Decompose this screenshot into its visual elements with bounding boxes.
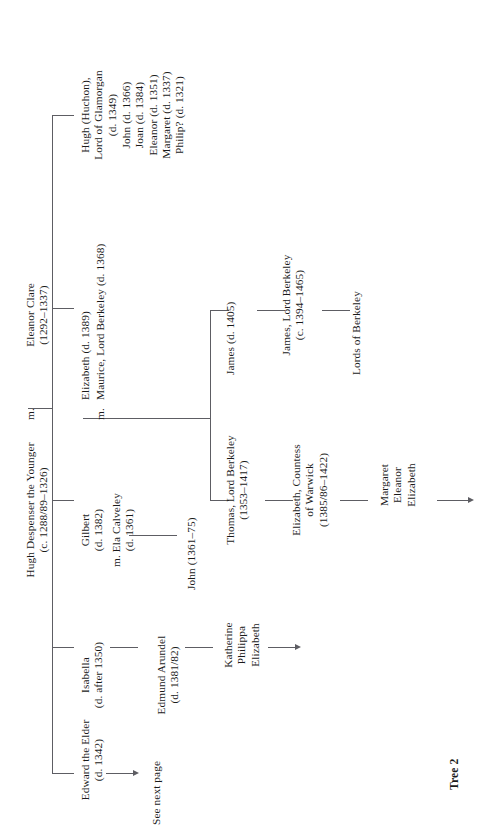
child-hugh-line2: Lord of Glamorgan	[92, 35, 105, 195]
wife-block: Eleanor Clare (1292–1337)	[24, 230, 51, 400]
descent-line-edmund-to-issue	[185, 647, 213, 648]
sibling-tick-elizabeth	[52, 308, 74, 309]
child-gilbert-block: Gilbert (d. 1382)	[79, 470, 106, 590]
isabella-issue-item: Katherine	[222, 590, 235, 700]
child-edward-dates: (d. 1342)	[92, 695, 105, 825]
descent-line-james-lord-to-lords	[322, 310, 350, 311]
see-next-page-label[interactable]: See next page	[150, 715, 163, 825]
sibling-tick-isabella	[52, 647, 74, 648]
husband-dates: (c. 1288/89–1326)	[37, 400, 50, 620]
berkeley-grandchild-item: Eleanor	[391, 430, 404, 540]
continuation-arrow-line-warwick	[437, 500, 469, 501]
berkeley-grandchild-item: Margaret	[378, 430, 391, 540]
descent-line-thomas-to-elizabeth	[265, 500, 293, 501]
isabella-issue-list: Katherine Philippa Elizabeth	[222, 590, 262, 700]
berkeley-issue-spine	[210, 310, 211, 500]
berkeley-continuation-label: Lords of Berkeley	[350, 245, 363, 375]
gilbert-child-john: John (1361–75)	[185, 470, 198, 590]
child-gilbert-name: Gilbert	[79, 470, 92, 590]
gilbert-spouse-dates: (d. 1361)	[123, 470, 136, 590]
berkeley-elizabeth-warwick-dates: (1385/86–1422)	[317, 415, 330, 565]
isabella-spouse-dates: (d. 1381/82)	[168, 610, 181, 740]
child-edward-block: Edward the Elder (d. 1342)	[79, 695, 106, 825]
child-hugh-block: Hugh (Huchon), Lord of Glamorgan (d. 134…	[79, 35, 119, 195]
berkeley-elizabeth-warwick-name: Elizabeth, Countess	[290, 415, 303, 565]
continuation-arrow-line-arundel	[268, 647, 296, 648]
husband-block: Hugh Despenser the Younger (c. 1288/89–1…	[24, 400, 51, 620]
isabella-issue-item: Elizabeth	[249, 590, 262, 700]
sibling-tick-hugh	[52, 115, 74, 116]
hugh-issue-item: Eleanor (d. 1351)	[147, 35, 160, 195]
husband-name: Hugh Despenser the Younger	[24, 400, 37, 620]
child-elizabeth-spouse: Maurice, Lord Berkeley (d. 1368)	[94, 210, 107, 400]
see-next-page-arrow-head	[133, 770, 139, 776]
sibling-spine	[52, 115, 53, 774]
berkeley-thomas-dates: (1353–1417)	[237, 415, 250, 565]
hugh-issue-item: John (d. 1366)	[120, 35, 133, 195]
sibling-tick-edward	[52, 773, 74, 774]
hugh-issue-list: John (d. 1366) Joan (d. 1384) Eleanor (d…	[120, 35, 187, 195]
child-elizabeth-name: Elizabeth (d. 1389)	[79, 260, 92, 400]
descent-line-isabella-to-edmund	[110, 647, 138, 648]
see-next-page-arrow-line	[106, 773, 134, 774]
child-hugh-line1: Hugh (Huchon),	[79, 35, 92, 195]
berkeley-grandchild-item: Elizabeth	[405, 430, 418, 540]
hugh-issue-item: Margaret (d. 1337)	[160, 35, 173, 195]
berkeley-james-lord-dates: (c. 1394–1465)	[293, 235, 306, 375]
child-hugh-line3: (d. 1349)	[106, 35, 119, 195]
hugh-issue-item: Philip? (d. 1321)	[173, 35, 186, 195]
berkeley-james-lord-name: James, Lord Berkeley	[280, 235, 293, 375]
child-gilbert-dates: (d. 1382)	[92, 470, 105, 590]
figure-caption: Tree 2	[448, 720, 462, 790]
child-edward-name: Edward the Elder	[79, 695, 92, 825]
berkeley-elizabeth-warwick-title: of Warwick	[303, 415, 316, 565]
berkeley-grandchildren-list: Margaret Eleanor Elizabeth	[378, 430, 418, 540]
wife-dates: (1292–1337)	[37, 230, 50, 400]
isabella-issue-item: Philippa	[235, 590, 248, 700]
berkeley-thomas-name: Thomas, Lord Berkeley	[224, 415, 237, 565]
berkeley-elizabeth-warwick-block: Elizabeth, Countess of Warwick (1385/86–…	[290, 415, 330, 565]
continuation-arrow-head-warwick	[468, 497, 474, 503]
berkeley-james-elder: James (d. 1405)	[224, 255, 237, 375]
continuation-arrow-head-arundel	[295, 644, 301, 650]
hugh-issue-item: Joan (d. 1384)	[133, 35, 146, 195]
descent-line-elizabeth-to-issue	[340, 500, 368, 501]
sibling-tick-gilbert	[52, 500, 74, 501]
berkeley-thomas-block: Thomas, Lord Berkeley (1353–1417)	[224, 415, 251, 565]
wife-name: Eleanor Clare	[24, 230, 37, 400]
gilbert-spouse-block: m. Ela Calveley (d. 1361)	[110, 470, 137, 590]
family-tree-figure: Hugh Despenser the Younger (c. 1288/89–1…	[0, 0, 490, 831]
gilbert-spouse-name: m. Ela Calveley	[110, 470, 123, 590]
berkeley-james-lord-block: James, Lord Berkeley (c. 1394–1465)	[280, 235, 307, 375]
